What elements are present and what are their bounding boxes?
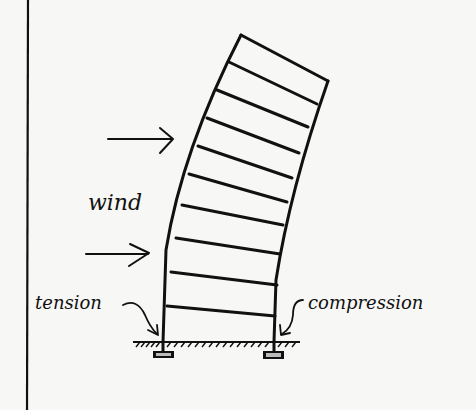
floor-beam xyxy=(217,90,308,127)
building-frame xyxy=(163,35,328,342)
left-column xyxy=(163,35,241,342)
floor-beam xyxy=(207,118,299,153)
floor-beam xyxy=(189,174,287,202)
right-footing-mark xyxy=(266,353,281,357)
compression-pointer-icon xyxy=(280,300,303,335)
wind-label: wind xyxy=(88,190,142,215)
wind-arrow-lower-icon xyxy=(86,244,149,266)
left-footing-mark xyxy=(156,353,171,356)
tension-label: tension xyxy=(35,292,102,313)
building-sketch xyxy=(0,0,476,410)
floor-beam xyxy=(176,238,280,254)
tension-pointer-icon xyxy=(123,303,158,335)
floor-beam xyxy=(198,146,292,178)
diagram-canvas: wind tension compression xyxy=(0,0,476,410)
page-border-line xyxy=(27,0,28,410)
floor-beam xyxy=(167,306,275,316)
floor-beam xyxy=(171,272,277,285)
floor-beam xyxy=(182,205,283,225)
compression-label: compression xyxy=(308,292,423,313)
wind-arrow-upper-icon xyxy=(108,128,173,153)
